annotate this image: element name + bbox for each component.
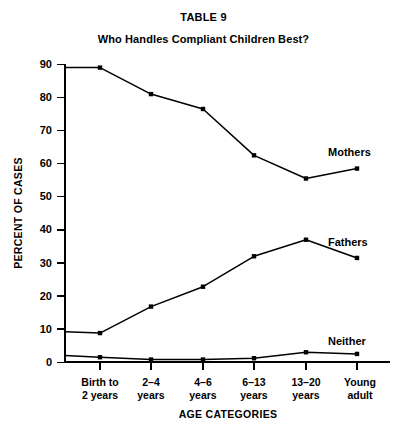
series-label-fathers: Fathers (328, 236, 368, 248)
line-chart-plot: PERCENT OF CASES 90 80 70 60 50 40 30 20… (0, 0, 407, 441)
y-tick-label-30: 30 (40, 257, 52, 269)
data-point (149, 304, 153, 308)
data-point (149, 92, 153, 96)
y-axis-title: PERCENT OF CASES (12, 157, 24, 269)
y-tick-label-80: 80 (40, 91, 52, 103)
data-point (252, 153, 256, 157)
y-tick-label-20: 20 (40, 290, 52, 302)
data-point (201, 357, 205, 361)
y-tick-label-40: 40 (40, 223, 52, 235)
data-point (98, 65, 102, 69)
x-tick-label-5-line2: adult (347, 389, 373, 401)
series-fathers (65, 238, 359, 336)
data-point (355, 166, 359, 170)
data-point (252, 254, 256, 258)
x-tick-label-5-line1: Young (344, 376, 376, 388)
x-tick-label-0-line2: 2 years (82, 389, 118, 401)
series-label-mothers: Mothers (328, 146, 371, 158)
x-tick-label-3-line1: 6–13 (242, 376, 266, 388)
data-point (252, 356, 256, 360)
x-tick-label-4-line2: years (292, 389, 320, 401)
y-tick-label-60: 60 (40, 157, 52, 169)
x-tick-label-0-line1: Birth to (81, 376, 118, 388)
series-mothers (65, 65, 359, 180)
x-axis-title: AGE CATEGORIES (179, 408, 278, 420)
x-tick-label-3-line2: years (240, 389, 268, 401)
series-label-neither: Neither (328, 335, 367, 347)
data-point (355, 256, 359, 260)
x-tick-label-1-line1: 2–4 (142, 376, 160, 388)
series-neither (65, 350, 359, 362)
x-tick-label-2-line2: years (189, 389, 217, 401)
x-tick-label-4-line1: 13–20 (291, 376, 320, 388)
series-line-mothers (65, 68, 357, 179)
data-point (201, 107, 205, 111)
y-tick-label-10: 10 (40, 323, 52, 335)
chart-figure: TABLE 9 Who Handles Compliant Children B… (0, 0, 407, 441)
y-tick-label-0: 0 (46, 356, 52, 368)
y-axis-ticks (57, 64, 65, 362)
series-line-fathers (65, 240, 357, 333)
data-point (201, 285, 205, 289)
x-axis-ticks (100, 362, 357, 370)
data-point (355, 352, 359, 356)
series-line-neither (65, 352, 357, 359)
data-point (304, 238, 308, 242)
y-tick-label-50: 50 (40, 190, 52, 202)
x-tick-label-2-line1: 4–6 (194, 376, 212, 388)
data-point (304, 176, 308, 180)
x-tick-label-1-line2: years (137, 389, 165, 401)
data-point (98, 355, 102, 359)
y-tick-label-90: 90 (40, 58, 52, 70)
data-point (149, 357, 153, 361)
x-category-labels: Birth to 2 years 2–4 years 4–6 years 6–1… (81, 376, 376, 401)
data-point (98, 331, 102, 335)
y-tick-label-70: 70 (40, 124, 52, 136)
data-point (304, 350, 308, 354)
